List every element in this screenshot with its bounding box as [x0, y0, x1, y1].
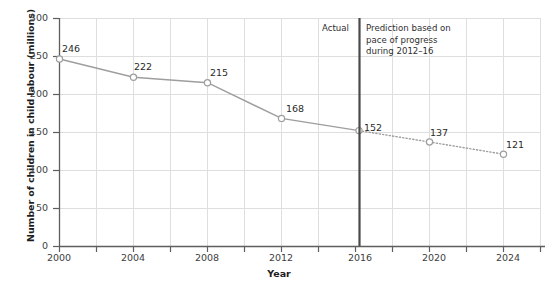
figure-caption [6, 284, 436, 291]
value-label-2000: 246 [62, 43, 80, 54]
data-point-2008 [204, 80, 210, 86]
data-point-2012 [278, 115, 284, 121]
value-label-2025: 121 [506, 139, 524, 150]
data-point-2000 [56, 56, 62, 62]
data-point-2004 [130, 74, 136, 80]
value-label-2016: 152 [364, 122, 382, 133]
value-label-2004: 222 [134, 61, 152, 72]
value-label-2012: 168 [286, 103, 304, 114]
y-axis-ticks [53, 19, 59, 247]
annotation-prediction: Prediction based on pace of progress dur… [366, 23, 496, 58]
value-label-2020: 137 [430, 127, 448, 138]
chart-container: Number of children in child labour (mill… [0, 0, 558, 291]
data-point-2020 [426, 139, 432, 145]
annotation-actual: Actual [322, 23, 349, 35]
value-label-2008: 215 [210, 67, 228, 78]
data-point-2025 [500, 151, 506, 157]
